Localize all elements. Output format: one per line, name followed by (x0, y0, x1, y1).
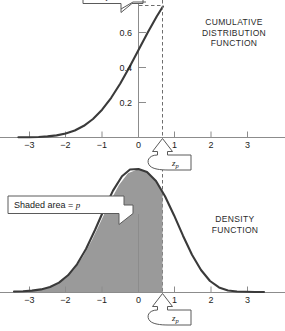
cdf-panel-title: CUMULATIVE DISTRIBUTION FUNCTION (186, 17, 282, 49)
shaded-area-callout-label: Shaded area = p (14, 200, 80, 210)
shaded-area-callout-prefix: Shaded area = (14, 200, 76, 210)
pdf-x-tick-label-2: 2 (201, 295, 221, 305)
cdf-x-tick-label-0: 0 (129, 140, 149, 150)
pdf-x-tick-label-0: 0 (129, 295, 149, 305)
cdf-zp-label-subscript: p (176, 162, 179, 169)
cdf-x-tick-label-1: 1 (165, 140, 185, 150)
cdf-x-tick-label-neg3: −3 (20, 140, 40, 150)
cdf-zp-callout-box (148, 155, 191, 170)
figure-root: CUMULATIVE DISTRIBUTION FUNCTION 0.6 0.4… (0, 0, 285, 331)
pdf-panel-title: DENSITY FUNCTION (192, 214, 278, 235)
p-callout-label: p (106, 0, 111, 1)
cdf-x-tick-label-3: 3 (238, 140, 258, 150)
cdf-y-tick-label-0-6: 0.6 (108, 28, 132, 38)
cdf-zp-label: zp (172, 158, 179, 169)
pdf-x-tick-label-3: 3 (238, 295, 258, 305)
pdf-zp-label-subscript: p (176, 317, 179, 324)
pdf-title-line-1: DENSITY (192, 214, 278, 225)
cdf-x-tick-label-neg1: −1 (92, 140, 112, 150)
pdf-zp-label: zp (172, 313, 179, 324)
cdf-title-line-1: CUMULATIVE (186, 17, 282, 28)
pdf-x-tick-label-1: 1 (165, 295, 185, 305)
pdf-x-tick-label-neg1: −1 (92, 295, 112, 305)
pdf-title-line-2: FUNCTION (192, 225, 278, 236)
pdf-x-tick-label-neg2: −2 (56, 295, 76, 305)
pdf-shaded-area (14, 169, 163, 292)
pdf-zp-callout-box (148, 310, 191, 325)
pdf-x-tick-label-neg3: −3 (20, 295, 40, 305)
cdf-title-line-2: DISTRIBUTION (186, 28, 282, 39)
cdf-y-tick-label-0-4: 0.4 (108, 63, 132, 73)
cdf-x-tick-label-neg2: −2 (56, 140, 76, 150)
figure-canvas (0, 0, 285, 331)
cdf-x-tick-label-2: 2 (201, 140, 221, 150)
cdf-curve (18, 7, 163, 138)
cdf-title-line-3: FUNCTION (186, 38, 282, 49)
shaded-area-callout-var: p (76, 200, 81, 210)
cdf-y-tick-label-0-2: 0.2 (108, 98, 132, 108)
